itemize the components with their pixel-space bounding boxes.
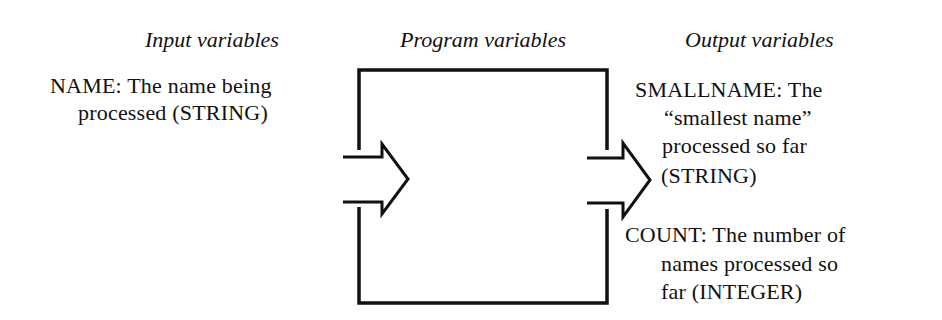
output-arrow-icon bbox=[587, 143, 650, 217]
output-variable-line: (STRING) bbox=[661, 162, 757, 189]
program-box bbox=[359, 70, 607, 303]
output-variable-line: “smallest name” bbox=[664, 104, 812, 131]
output-variables-heading: Output variables bbox=[685, 27, 834, 53]
input-variable-line: processed (STRING) bbox=[78, 99, 268, 126]
output-variable-line: far (INTEGER) bbox=[661, 278, 802, 305]
output-variable-line: SMALLNAME: The bbox=[635, 76, 823, 103]
input-variables-heading: Input variables bbox=[145, 27, 279, 53]
input-arrow-icon bbox=[343, 144, 408, 214]
output-variable-line: processed so far bbox=[662, 132, 807, 159]
output-variable-line: COUNT: The number of bbox=[625, 221, 846, 248]
output-variable-line: names processed so bbox=[661, 250, 838, 277]
program-variables-heading: Program variables bbox=[400, 27, 566, 53]
input-variable-line: NAME: The name being bbox=[50, 72, 272, 99]
